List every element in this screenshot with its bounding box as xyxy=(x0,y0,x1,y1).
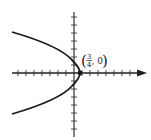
vertex-point xyxy=(78,71,83,76)
svg-text:): ) xyxy=(102,52,108,70)
parabola-graph: ( 3 4 , 0 ) xyxy=(0,0,151,140)
svg-text:(: ( xyxy=(81,52,87,70)
vertex-label: ( 3 4 , 0 ) xyxy=(81,52,108,70)
x-axis-arrow-icon xyxy=(137,70,147,77)
